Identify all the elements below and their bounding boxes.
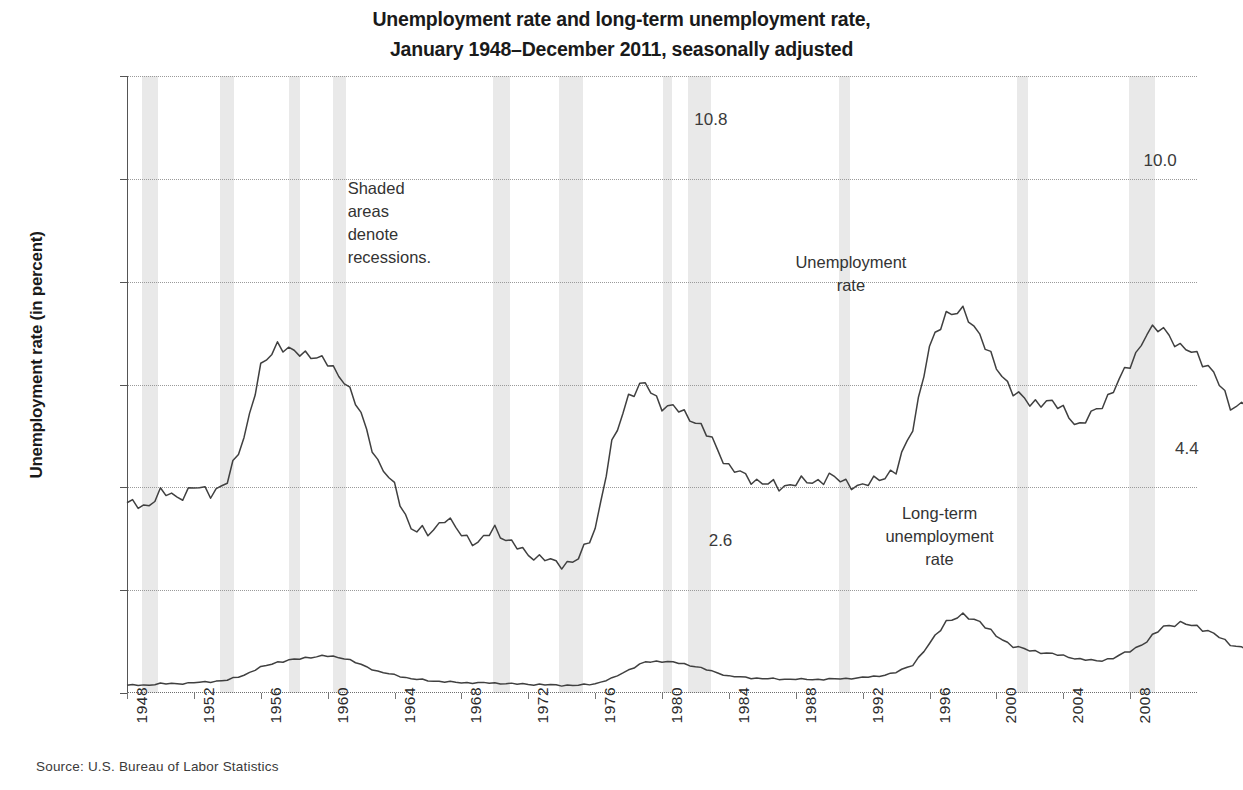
source-note: Source: U.S. Bureau of Labor Statistics	[36, 759, 279, 774]
x-tick-mark	[127, 693, 128, 699]
value-annotation: 10.8	[694, 110, 727, 130]
value-annotation: 4.4	[1175, 439, 1199, 459]
x-tick-mark	[796, 693, 797, 699]
plot-area: 024681012 194819521956196019641968197219…	[127, 76, 1197, 693]
y-tick-mark	[120, 282, 127, 283]
y-tick-mark	[120, 693, 127, 694]
chart-title-line-1: Unemployment rate and long-term unemploy…	[0, 4, 1243, 34]
y-tick-mark	[120, 76, 127, 77]
x-tick-mark	[194, 693, 195, 699]
x-tick-mark	[395, 693, 396, 699]
x-tick-mark	[930, 693, 931, 699]
x-tick-mark	[1130, 693, 1131, 699]
x-tick-mark	[261, 693, 262, 699]
y-tick-mark	[120, 487, 127, 488]
y-tick-mark	[120, 385, 127, 386]
x-tick-mark	[729, 693, 730, 699]
chart-title: Unemployment rate and long-term unemploy…	[0, 4, 1243, 64]
chart-root: Unemployment rate and long-term unemploy…	[0, 0, 1243, 790]
recession-note: Shaded areas denote recessions.	[348, 177, 431, 269]
x-tick-mark	[461, 693, 462, 699]
x-tick-mark	[528, 693, 529, 699]
series-line	[127, 133, 1243, 569]
x-tick-mark	[328, 693, 329, 699]
series-label-long-term: Long-term unemployment rate	[885, 502, 993, 571]
series-label-unemployment: Unemployment rate	[795, 251, 906, 297]
y-tick-mark	[120, 590, 127, 591]
chart-title-line-2: January 1948–December 2011, seasonally a…	[0, 34, 1243, 64]
x-tick-mark	[996, 693, 997, 699]
series-lines	[127, 76, 1197, 693]
value-annotation: 10.0	[1144, 151, 1177, 171]
series-line	[127, 468, 1243, 686]
x-tick-mark	[595, 693, 596, 699]
value-annotation: 2.6	[709, 531, 733, 551]
y-axis-title: Unemployment rate (in percent)	[27, 75, 47, 635]
x-tick-mark	[863, 693, 864, 699]
x-tick-mark	[1063, 693, 1064, 699]
x-tick-mark	[662, 693, 663, 699]
y-tick-mark	[120, 179, 127, 180]
